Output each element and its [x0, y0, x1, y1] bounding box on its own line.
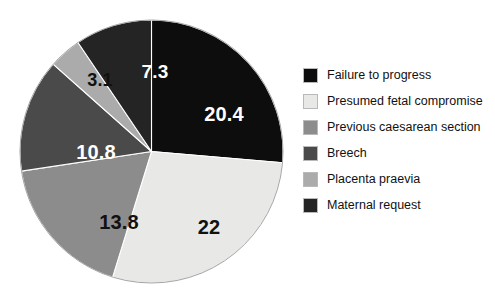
- pie-chart-plot-area: 20.4 22 13.8 10.8 3.1 7.3: [19, 19, 284, 284]
- legend-item-label: Presumed fetal compromise: [327, 95, 483, 108]
- legend-item-breech: Breech: [303, 140, 493, 166]
- pie-chart-figure: 20.4 22 13.8 10.8 3.1 7.3 Failure to pro…: [0, 0, 495, 295]
- legend-item-placenta-praevia: Placenta praevia: [303, 166, 493, 192]
- pie-chart-svg: [19, 19, 284, 284]
- legend-item-label: Placenta praevia: [327, 173, 420, 186]
- legend-item-presumed-fetal-compromise: Presumed fetal compromise: [303, 88, 493, 114]
- legend-item-failure-to-progress: Failure to progress: [303, 62, 493, 88]
- legend-swatch-icon: [303, 198, 318, 213]
- legend-swatch-icon: [303, 68, 318, 83]
- legend-item-label: Maternal request: [327, 199, 421, 212]
- legend-swatch-icon: [303, 120, 318, 135]
- legend-swatch-icon: [303, 172, 318, 187]
- pie-slice-group: [20, 20, 283, 283]
- legend-item-label: Breech: [327, 147, 367, 160]
- legend-item-label: Failure to progress: [327, 69, 431, 82]
- legend-swatch-icon: [303, 94, 318, 109]
- legend-swatch-icon: [303, 146, 318, 161]
- legend-item-label: Previous caesarean section: [327, 121, 481, 134]
- legend-item-maternal-request: Maternal request: [303, 192, 493, 218]
- chart-legend: Failure to progress Presumed fetal compr…: [303, 62, 493, 218]
- legend-item-previous-caesarean-section: Previous caesarean section: [303, 114, 493, 140]
- pie-slice: [152, 20, 284, 163]
